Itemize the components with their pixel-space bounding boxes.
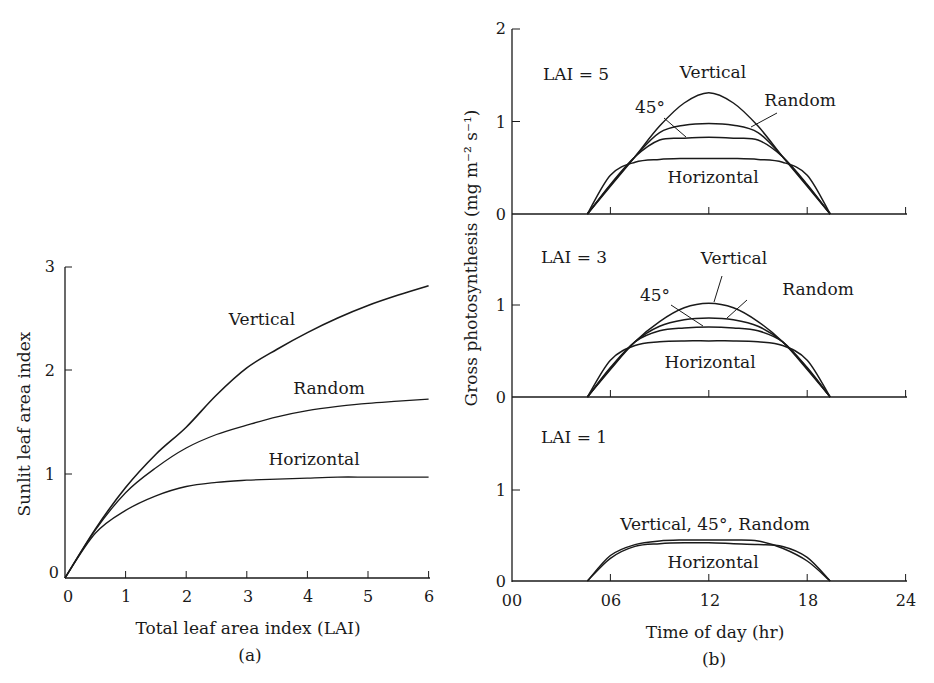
chart-b-mid-label-horizontal: Horizontal	[664, 352, 755, 372]
chart-b-xtick-18: 18	[798, 591, 818, 610]
chart-a-panel-label: (a)	[238, 645, 261, 665]
chart-b-bot-ytick-0: 0	[496, 572, 506, 591]
chart-b-subpanel-bot: 10	[496, 481, 907, 591]
chart-b-mid-ytick-1: 1	[496, 296, 506, 315]
chart-a-label-horizontal: Horizontal	[268, 449, 359, 469]
chart-a-xtick-6: 6	[424, 587, 434, 606]
chart-b-panel-label: (b)	[702, 649, 726, 669]
chart-a: 3 2 1 0 0 1 2 3 4 5 6 Total leaf area in…	[14, 257, 434, 665]
chart-a-xtick-1: 1	[121, 587, 131, 606]
chart-b-xtick-12: 12	[700, 591, 720, 610]
chart-b-xtick-24: 24	[896, 591, 916, 610]
chart-b-y-axis-title: Gross photosynthesis (mg m⁻² s⁻¹)	[461, 110, 481, 407]
chart-a-xtick-4: 4	[303, 587, 313, 606]
chart-b-mid-ytick-0: 0	[496, 388, 506, 407]
chart-b-xtick-06: 06	[601, 591, 621, 610]
chart-b-mid-label-random: Random	[782, 279, 854, 299]
chart-b-top-curve-vertical	[587, 93, 830, 214]
chart-a-xtick-3: 3	[243, 587, 253, 606]
chart-b-mid-label-45: 45°	[640, 285, 670, 305]
chart-a-ytick-2: 2	[45, 361, 55, 380]
chart-b-mid-lai-label: LAI = 3	[541, 247, 607, 267]
figure: 3 2 1 0 0 1 2 3 4 5 6 Total leaf area in…	[0, 0, 934, 683]
chart-b: 2 101010 00 06 12 18 24 Time of day (hr)…	[461, 19, 916, 669]
chart-a-ytick-3: 3	[45, 257, 55, 276]
chart-a-curve-vertical	[65, 286, 429, 578]
chart-b-top-ytick-2: 2	[496, 19, 506, 38]
chart-b-top-label-vertical: Vertical	[679, 62, 746, 82]
chart-a-ytick-1: 1	[45, 465, 55, 484]
chart-a-xtick-5: 5	[363, 587, 373, 606]
chart-a-xtick-2: 2	[182, 587, 192, 606]
chart-a-x-axis-title: Total leaf area index (LAI)	[135, 618, 360, 638]
chart-a-curves	[65, 286, 429, 578]
chart-b-top-ytick-0: 0	[496, 205, 506, 224]
chart-b-bot-label-horizontal: Horizontal	[667, 552, 758, 572]
chart-b-top-label-45: 45°	[635, 97, 665, 117]
chart-b-subpanel-top: 10	[496, 93, 907, 224]
chart-a-xtick-0: 0	[63, 587, 73, 606]
chart-b-top-lai-label: LAI = 5	[543, 64, 609, 84]
chart-a-y-axis-title: Sunlit leaf area index	[14, 331, 34, 516]
chart-b-x-axis-title: Time of day (hr)	[646, 622, 785, 642]
chart-b-bot-label-combined: Vertical, 45°, Random	[619, 514, 810, 534]
chart-b-top-label-horizontal: Horizontal	[667, 167, 758, 187]
chart-b-xtick-00: 00	[502, 591, 522, 610]
chart-a-label-vertical: Vertical	[228, 309, 295, 329]
chart-b-top-ytick-1: 1	[496, 113, 506, 132]
chart-a-ytick-0: 0	[49, 563, 59, 582]
chart-b-bot-lai-label: LAI = 1	[541, 427, 607, 447]
chart-b-top-label-random: Random	[764, 90, 836, 110]
chart-a-curve-random	[65, 399, 429, 578]
chart-a-label-random: Random	[293, 378, 365, 398]
chart-a-curve-horizontal	[65, 477, 429, 578]
chart-b-mid-label-vertical: Vertical	[700, 248, 767, 268]
chart-b-bot-ytick-1: 1	[496, 481, 506, 500]
